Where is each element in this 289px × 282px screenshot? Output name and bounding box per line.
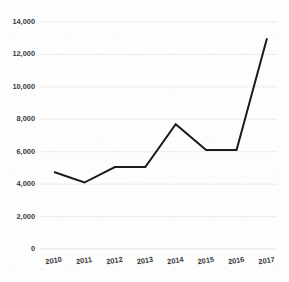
y-tick-label-14000: 14,000 [12,17,35,26]
y-tick-label-4000: 4,000 [17,179,36,188]
chart-canvas: 02,0004,0006,0008,00010,00012,00014,000 … [0,0,289,282]
x-tick-label-2017: 2017 [258,255,276,266]
y-tick-label-8000: 8,000 [17,114,36,123]
x-tick-label-2015: 2015 [197,255,215,266]
line-chart: 02,0004,0006,0008,00010,00012,00014,000 … [0,0,289,282]
x-tick-label-2013: 2013 [136,255,154,266]
y-tick-label-6000: 6,000 [17,147,36,156]
x-tick-label-2011: 2011 [75,255,92,266]
x-tick-label-2016: 2016 [227,255,245,266]
y-tick-label-12000: 12,000 [12,49,35,58]
y-tick-label-0: 0 [31,244,35,253]
x-axis-tick-labels: 20102011201220132014201520162017 [45,255,276,267]
x-tick-label-2010: 2010 [45,255,63,266]
y-axis-tick-labels: 02,0004,0006,0008,00010,00012,00014,000 [12,17,35,253]
data-series-line [54,38,267,182]
x-tick-label-2012: 2012 [106,255,124,266]
y-tick-label-10000: 10,000 [12,82,35,91]
x-tick-label-2014: 2014 [166,255,185,267]
y-tick-label-2000: 2,000 [17,212,36,221]
